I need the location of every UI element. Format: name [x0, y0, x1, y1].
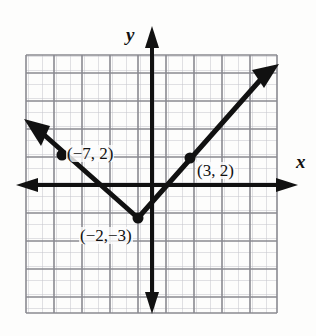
graph-canvas	[0, 0, 316, 336]
x-axis-label: x	[296, 152, 306, 171]
point-label-negative-seven-two: (−7, 2)	[66, 145, 114, 162]
point-dot-right	[185, 153, 196, 164]
y-axis-label: y	[126, 25, 134, 44]
coordinate-graph-figure: y x (−7, 2) (3, 2) (−2,−3)	[0, 0, 316, 336]
vertex-dot	[133, 213, 144, 224]
point-label-three-two: (3, 2)	[196, 162, 235, 179]
vertex-label: (−2,−3)	[79, 227, 133, 244]
